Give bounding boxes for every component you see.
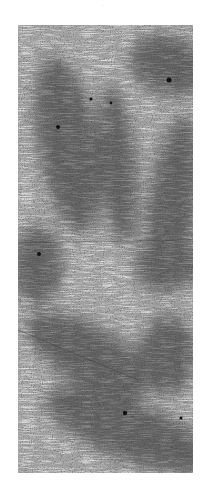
dark-spot [89, 97, 92, 100]
dark-spot [180, 417, 183, 420]
top-mark: · [0, 2, 206, 8]
dark-spot [37, 252, 41, 256]
dark-spot [123, 411, 127, 415]
dendritic-texture-panel [18, 25, 193, 473]
dark-spot [167, 78, 172, 83]
dark-spot [110, 102, 113, 105]
dark-spot [56, 125, 60, 129]
texture-canvas [18, 25, 193, 473]
